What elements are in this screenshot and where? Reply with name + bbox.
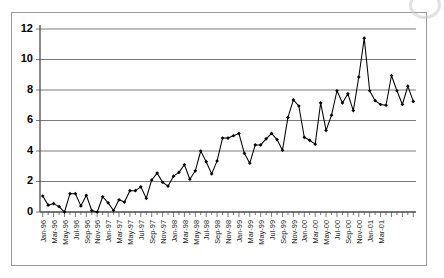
x-tick-label: Nov-98 [224,220,233,244]
data-point-marker [199,149,203,153]
data-line-series-1 [43,38,414,212]
data-point-marker [324,129,328,133]
data-point-marker [215,159,219,163]
data-point-marker [384,103,388,107]
y-axis-tick-labels: 024681012 [21,22,34,217]
x-tick-label: Mar-00 [311,220,320,243]
data-point-marker [401,103,405,107]
data-point-marker [351,109,355,113]
data-point-marker [204,160,208,164]
data-point-marker [330,113,334,117]
x-tick-label: Jan-99 [235,220,244,243]
data-point-marker [232,134,236,138]
x-tick-label: May-99 [257,220,266,245]
y-tick-label: 0 [27,205,33,217]
x-tick-label: Jan-96 [39,220,48,243]
data-point-marker [74,192,78,196]
data-point-marker [411,100,415,104]
x-tick-label: Jul-97 [137,220,146,240]
y-tick-label: 12 [21,22,33,34]
data-point-marker [281,148,285,152]
data-point-marker [286,116,290,120]
x-tick-label: Jul-98 [202,220,211,240]
x-tick-label: Jan-01 [366,220,375,243]
x-tick-label: Jul-96 [72,220,81,240]
y-tick-label: 10 [21,52,33,64]
x-axis-tick-labels: Jan-96Mar-96May-96Jul-96Sep-96Nov-96Jan-… [39,220,386,245]
x-tick-label: Mar-97 [115,220,124,243]
plot-area: 024681012 Jan-96Mar-96May-96Jul-96Sep-96… [12,13,428,267]
x-tick-label: Sep-00 [344,220,353,244]
x-tick-label: Sep-97 [148,220,157,244]
x-tick-label: Jan-97 [104,220,113,243]
x-tick-label: Mar-98 [181,220,190,243]
y-tick-label: 4 [27,144,34,156]
data-point-marker [357,75,361,79]
x-tick-label: Mar-01 [377,220,386,243]
x-tick-label: Nov-99 [290,220,299,244]
data-point-marker [335,89,339,93]
x-tick-label: May-97 [126,220,135,245]
data-point-marker [210,172,214,176]
x-tick-label: Sep-98 [213,220,222,244]
x-tick-label: Mar-99 [246,220,255,243]
data-point-marker [68,192,72,196]
x-tick-label: Jan-00 [300,220,309,243]
data-point-marker [319,101,323,105]
x-tick-label: May-96 [61,220,70,245]
data-series-group [43,38,414,212]
data-point-marker [362,36,366,40]
data-point-marker [395,89,399,93]
data-point-marker [253,143,257,147]
data-point-marker [84,193,88,197]
data-point-marker [237,132,241,136]
data-point-marker [117,198,121,202]
x-tick-label: Jul-99 [268,220,277,240]
y-tick-label: 2 [27,174,33,186]
x-tick-label: Nov-97 [159,220,168,244]
x-tick-label: May-98 [192,220,201,245]
x-tick-label: Sep-99 [279,220,288,244]
data-point-marker [221,136,225,140]
chart-figure: 024681012 Jan-96Mar-96May-96Jul-96Sep-96… [11,12,427,266]
x-tick-label: May-00 [322,220,331,245]
gridlines-group [36,29,416,212]
x-tick-label: Jul-00 [333,220,342,240]
data-point-marker [123,200,127,204]
data-markers-group [41,36,415,214]
data-point-marker [406,84,410,88]
data-point-marker [128,189,132,193]
x-tick-label: Nov-96 [93,220,102,244]
axis-lines [40,25,416,212]
y-tick-label: 6 [27,113,33,125]
x-tick-label: Mar-96 [50,220,59,243]
data-point-marker [95,210,99,214]
data-point-marker [390,74,394,78]
x-tick-label: Jan-98 [170,220,179,243]
y-tick-label: 8 [27,83,33,95]
data-point-marker [226,136,230,140]
x-tick-label: Sep-96 [83,220,92,244]
line-chart-svg: 024681012 Jan-96Mar-96May-96Jul-96Sep-96… [12,13,428,267]
data-point-marker [79,204,83,208]
data-point-marker [144,196,148,200]
x-tick-label: Nov-00 [355,220,364,244]
